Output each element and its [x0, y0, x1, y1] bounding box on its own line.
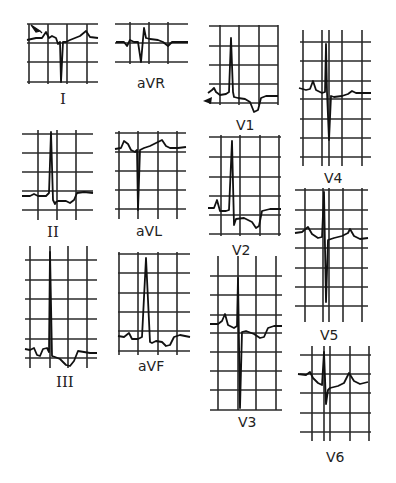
lead-V5-trace [295, 192, 368, 302]
lead-aVF-trace [118, 258, 190, 346]
arrow-pointer-icon [203, 97, 212, 104]
lead-label: aVR [137, 75, 165, 91]
lead-V6-grid [300, 346, 371, 441]
lead-aVR-panel: aVR [115, 22, 188, 91]
lead-III-panel: III [25, 246, 97, 391]
lead-V4-grid [300, 30, 371, 166]
lead-V1-grid [209, 25, 278, 105]
lead-V2-panel: V2 [208, 135, 281, 258]
arrow-pointer-icon [31, 25, 42, 33]
lead-V5-panel: V5 [295, 188, 368, 343]
lead-label: V4 [324, 170, 343, 186]
lead-aVR-grid [115, 22, 188, 64]
lead-V1-trace [208, 38, 278, 112]
lead-label: III [56, 373, 74, 391]
lead-V4-panel: V4 [299, 30, 371, 186]
lead-V4-trace [299, 44, 371, 140]
lead-label: V3 [238, 414, 256, 430]
lead-aVL-panel: aVL [115, 131, 186, 239]
lead-V6-panel: V6 [298, 346, 371, 465]
lead-aVR-trace [116, 28, 188, 62]
lead-V1-panel: V1 [203, 25, 278, 133]
lead-V3-trace [210, 278, 282, 408]
lead-label: aVF [138, 358, 164, 374]
lead-V2-grid [209, 135, 281, 236]
lead-label: aVL [136, 223, 162, 239]
lead-label: V5 [320, 327, 338, 343]
lead-aVF-grid [118, 252, 190, 355]
lead-label: II [47, 223, 59, 241]
lead-V3-grid [210, 256, 282, 410]
lead-aVF-panel: aVF [118, 252, 190, 374]
lead-label: V6 [326, 449, 345, 465]
ecg-figure: I aVR V1 [0, 0, 396, 483]
lead-V5-grid [295, 188, 368, 322]
lead-V6-trace [298, 352, 368, 404]
lead-II-panel: II [22, 130, 93, 241]
lead-III-grid [25, 246, 97, 368]
lead-V3-panel: V3 [210, 256, 282, 430]
lead-aVL-grid [115, 131, 186, 219]
lead-II-grid [22, 130, 93, 220]
lead-aVL-trace [115, 140, 186, 210]
lead-I-panel: I [27, 24, 98, 108]
lead-label: I [60, 90, 66, 108]
lead-label: V2 [232, 242, 250, 258]
lead-label: V1 [236, 117, 254, 133]
